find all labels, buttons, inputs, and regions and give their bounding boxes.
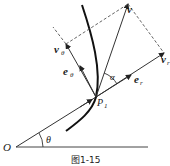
label-point: P [96,97,103,108]
figure-caption: 图1-15 [71,155,100,165]
label-alpha: α [110,72,115,82]
dashed-extension [53,27,66,44]
label-e-r-sub: r [140,79,143,87]
label-point-sub: 1 [104,102,108,110]
radial-arrow-to-p1 [80,100,92,108]
label-v-theta: v [54,43,59,55]
label-v: v [127,3,132,15]
label-v-theta-sub: θ [61,49,65,57]
label-theta: θ [46,134,51,145]
label-e-theta: e [63,65,68,77]
trajectory-curve [66,5,98,131]
label-v-r-sub: r [167,59,170,67]
dashed-parallel-2 [128,4,164,53]
label-e-r: e [134,73,139,85]
v-vector [96,4,128,97]
e-theta-unit-vector [80,66,96,97]
label-origin: O [3,141,11,153]
label-v-r: v [161,53,166,65]
dashed-parallel-1 [66,4,128,44]
polar-velocity-diagram: O θ P 1 α v v r e r v θ e θ 图1-15 [0,0,170,166]
theta-arc [39,133,43,147]
label-e-theta-sub: θ [70,71,74,79]
